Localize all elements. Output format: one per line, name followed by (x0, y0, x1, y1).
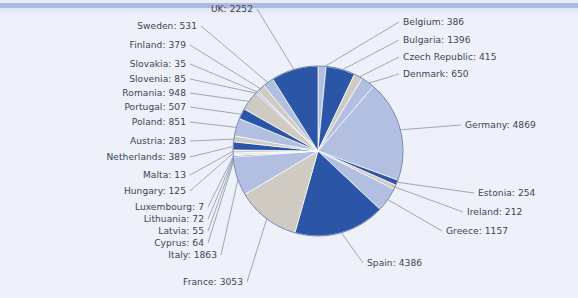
pie-slice-label: Greece: 1157 (446, 226, 508, 237)
label-leader-line (208, 156, 235, 243)
pie-slice-label: Hungary: 125 (0, 186, 186, 197)
label-leader-line (398, 125, 461, 130)
pie-slice-label: Netherlands: 389 (0, 152, 186, 163)
pie-slice-label: Germany: 4869 (465, 120, 536, 131)
pie-slices-group (233, 66, 403, 236)
pie-slice-label: Ireland: 212 (467, 207, 522, 218)
label-leader-line (190, 122, 238, 128)
pie-slice-label: Austria: 283 (0, 136, 186, 147)
pie-slice-label: UK: 2252 (0, 4, 253, 15)
label-leader-line (190, 93, 251, 102)
pie-slice-label: Latvia: 55 (0, 226, 204, 237)
label-leader-line (190, 139, 236, 141)
label-leader-line (190, 107, 243, 115)
pie-slice-label: Poland: 851 (0, 117, 186, 128)
pie-slice-label: Belgium: 386 (403, 17, 464, 28)
pie-slice-label: Italy: 1863 (0, 250, 217, 261)
label-leader-line (357, 57, 399, 78)
pie-slice-label: Czech Republic: 415 (403, 52, 497, 63)
pie-slice-label: Denmark: 650 (403, 69, 469, 80)
label-leader-line (190, 45, 262, 90)
pie-slice-label: Portugal: 507 (0, 102, 186, 113)
label-leader-line (208, 155, 235, 231)
pie-slice-label: Sweden: 531 (0, 21, 197, 32)
label-leader-line (386, 199, 442, 231)
pie-slice-label: Finland: 379 (0, 40, 186, 51)
label-leader-line (247, 217, 267, 282)
pie-slice-label: Slovenia: 85 (0, 74, 186, 85)
pie-slice-label: Malta: 13 (0, 170, 186, 181)
label-leader-line (367, 74, 399, 84)
label-leader-line (340, 40, 399, 71)
label-leader-line (190, 146, 235, 157)
label-leader-line (201, 26, 269, 84)
pie-slice-label: Cyprus: 64 (0, 238, 204, 249)
pie-slice-label: France: 3053 (0, 277, 243, 288)
label-leader-line (340, 231, 363, 263)
label-leader-line (257, 9, 295, 71)
pie-chart-figure: UK: 2252Sweden: 531Finland: 379Slovakia:… (0, 0, 578, 298)
pie-slice-label: Slovakia: 35 (0, 59, 186, 70)
chart-canvas: UK: 2252Sweden: 531Finland: 379Slovakia:… (0, 0, 578, 298)
label-leader-line (322, 22, 399, 68)
pie-slice-label: Estonia: 254 (478, 188, 535, 199)
pie-slice-label: Bulgaria: 1396 (403, 35, 471, 46)
pie-slice-label: Luxembourg: 7 (0, 202, 204, 213)
label-leader-line (190, 64, 259, 93)
pie-slice-label: Romania: 948 (0, 88, 186, 99)
pie-slice-label: Spain: 4386 (367, 258, 422, 269)
pie-slice-label: Lithuania: 72 (0, 214, 204, 225)
